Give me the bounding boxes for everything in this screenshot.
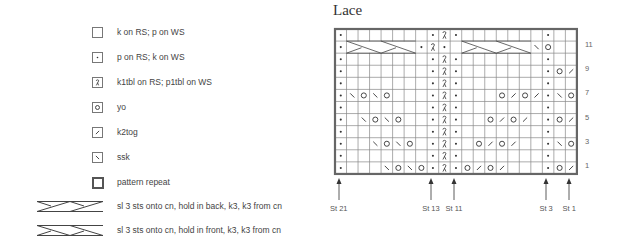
cable-front-icon (37, 225, 103, 236)
legend-label: pattern repeat (117, 177, 170, 187)
repeat-icon (92, 177, 104, 189)
legend-label: sl 3 sts onto cn, hold in front, k3, k3 … (117, 225, 281, 235)
row-number: 7 (585, 88, 589, 97)
k1tbl-icon (92, 77, 103, 88)
row-number: 9 (585, 64, 589, 73)
legend-label: sl 3 sts onto cn, hold in back, k3, k3 f… (117, 201, 282, 211)
arrow-up-icon (335, 178, 343, 200)
arrow-up-icon (450, 178, 458, 200)
cable-back-icon (37, 201, 103, 212)
chart-grid (333, 27, 579, 176)
ssk-icon (92, 152, 103, 163)
yo-icon (92, 102, 103, 113)
purl-icon (92, 52, 103, 63)
stitch-label: St 1 (562, 204, 575, 213)
legend-label: ssk (117, 152, 130, 162)
legend-label: k2tog (117, 127, 138, 137)
stitch-label: St 21 (330, 204, 348, 213)
legend-label: k1tbl on RS; p1tbl on WS (117, 77, 212, 87)
row-number: 1 (585, 161, 589, 170)
stitch-label: St 3 (539, 204, 552, 213)
k2tog-icon (92, 127, 103, 138)
stitch-label: St 13 (422, 204, 440, 213)
row-number: 3 (585, 137, 589, 146)
knit-icon (92, 27, 103, 38)
arrow-up-icon (542, 178, 550, 200)
row-number: 11 (585, 40, 593, 49)
arrow-up-icon (565, 178, 573, 200)
legend-label: p on RS; k on WS (117, 52, 185, 62)
legend-label: yo (117, 102, 126, 112)
legend-label: k on RS; p on WS (117, 27, 185, 37)
stitch-label: St 11 (445, 204, 462, 213)
row-number: 5 (585, 113, 589, 122)
chart-title: Lace (333, 2, 362, 19)
arrow-up-icon (427, 178, 435, 200)
